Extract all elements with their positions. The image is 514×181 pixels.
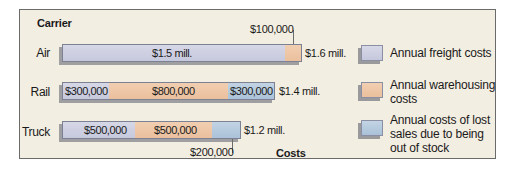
total-air: $1.6 mill. <box>305 47 346 59</box>
total-truck: $1.2 mill. <box>244 124 285 136</box>
carrier-label-air: Air <box>10 46 50 60</box>
axis-title-carrier: Carrier <box>37 17 72 29</box>
bar-truck-warehousing-segment: $500,000 <box>135 121 212 139</box>
legend-label-lost-sales-line1: Annual costs of lost <box>390 113 490 127</box>
legend-label-freight: Annual freight costs <box>390 46 491 60</box>
bar-rail-freight-segment: $300,000 <box>62 82 109 100</box>
callout-air-warehousing: $100,000 <box>250 23 293 35</box>
bar-rail: $300,000 $800,000 $300,000 <box>62 82 275 100</box>
legend-swatch-warehousing <box>361 82 383 98</box>
legend-swatch-freight <box>361 45 383 61</box>
axis-title-costs: Costs <box>276 147 306 159</box>
bar-air-freight-segment: $1.5 mill. <box>62 44 285 62</box>
bar-truck-freight-value: $500,000 <box>84 124 127 136</box>
bar-rail-freight-value: $300,000 <box>65 85 108 97</box>
legend-label-lost-sales-line2: sales due to being <box>390 127 490 141</box>
bar-air-warehousing-segment <box>285 44 302 62</box>
total-rail: $1.4 mill. <box>279 85 320 97</box>
legend-swatch-lost-sales <box>361 120 383 136</box>
legend-label-lost-sales-line3: out of stock <box>390 141 490 155</box>
bar-rail-lost-sales-segment: $300,000 <box>228 82 275 100</box>
legend-label-freight-line1: Annual freight costs <box>390 46 491 60</box>
bar-rail-warehousing-segment: $800,000 <box>109 82 228 100</box>
bar-air: $1.5 mill. <box>62 44 302 62</box>
legend-label-warehousing-line1: Annual warehousing <box>390 78 495 92</box>
bar-air-freight-value: $1.5 mill. <box>152 47 192 59</box>
legend-label-lost-sales: Annual costs of lost sales due to being … <box>390 113 490 155</box>
bar-truck-freight-segment: $500,000 <box>62 121 135 139</box>
bar-truck: $500,000 $500,000 <box>62 121 241 139</box>
legend-label-warehousing-line2: costs <box>390 92 495 106</box>
bar-rail-warehousing-value: $800,000 <box>152 85 195 97</box>
bar-truck-lost-sales-segment <box>212 121 241 139</box>
legend-label-warehousing: Annual warehousing costs <box>390 78 495 106</box>
bar-rail-lost-sales-value: $300,000 <box>230 85 273 97</box>
bar-truck-warehousing-value: $500,000 <box>154 124 197 136</box>
carrier-label-truck: Truck <box>10 125 50 139</box>
carrier-label-rail: Rail <box>10 85 50 99</box>
callout-truck-lost-sales: $200,000 <box>190 146 233 158</box>
